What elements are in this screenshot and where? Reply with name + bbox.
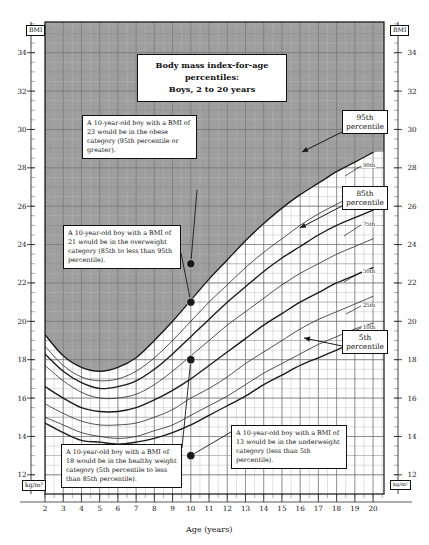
y-tick-26-right: 26 xyxy=(404,202,420,211)
x-tick-5: 5 xyxy=(92,504,108,513)
chart-title-line2: Boys, 2 to 20 years xyxy=(144,84,280,96)
x-tick-7: 7 xyxy=(128,504,144,513)
y-tick-20-right: 20 xyxy=(404,317,420,326)
x-tick-15: 15 xyxy=(274,504,290,513)
y-tick-18-right: 18 xyxy=(404,355,420,364)
label-75th-percentile: 75th xyxy=(362,222,376,227)
x-tick-3: 3 xyxy=(55,504,71,513)
y-tick-12-left: 12 xyxy=(14,470,30,479)
label-95th-percentile: 95th percentile xyxy=(342,110,388,134)
y-tick-18-left: 18 xyxy=(14,355,30,364)
callout-underweight: A 10-year-old boy with a BMI of 13 would… xyxy=(231,425,347,469)
y-tick-14-left: 14 xyxy=(14,432,30,441)
y-tick-14-right: 14 xyxy=(404,432,420,441)
label-95th-line2: percentile xyxy=(346,122,384,131)
y-tick-34-right: 34 xyxy=(404,48,420,57)
label-50th-percentile: 50th xyxy=(362,269,376,274)
label-5th-line2: percentile xyxy=(346,342,384,351)
y-axis-unit-top-right: BMI xyxy=(390,25,409,36)
y-tick-28-left: 28 xyxy=(14,163,30,172)
label-85th-line1: 85th xyxy=(346,189,384,198)
x-tick-16: 16 xyxy=(292,504,308,513)
y-tick-22-right: 22 xyxy=(404,278,420,287)
x-tick-13: 13 xyxy=(237,504,253,513)
label-10th-percentile: 10th xyxy=(362,325,376,330)
y-tick-20-left: 20 xyxy=(14,317,30,326)
y-tick-24-right: 24 xyxy=(404,240,420,249)
label-5th-percentile: 5th percentile xyxy=(342,330,388,354)
y-tick-30-right: 30 xyxy=(404,125,420,134)
y-tick-32-right: 32 xyxy=(404,87,420,96)
label-25th-percentile: 25th xyxy=(362,303,376,308)
y-tick-24-left: 24 xyxy=(14,240,30,249)
y-tick-16-right: 16 xyxy=(404,394,420,403)
x-tick-19: 19 xyxy=(347,504,363,513)
callout-obese: A 10-year-old boy with a BMI of 23 would… xyxy=(82,115,197,159)
x-tick-6: 6 xyxy=(110,504,126,513)
y-tick-12-right: 12 xyxy=(404,470,420,479)
x-tick-18: 18 xyxy=(329,504,345,513)
callout-healthy-weight: A 10-year-old boy with a BMI of 18 would… xyxy=(61,444,182,488)
y-tick-30-left: 30 xyxy=(14,125,30,134)
label-85th-line2: percentile xyxy=(346,198,384,207)
label-90th-percentile: 90th xyxy=(362,163,376,168)
x-tick-17: 17 xyxy=(310,504,326,513)
callout-overweight: A 10-year-old boy with a BMI of 21 would… xyxy=(63,225,181,269)
y-tick-32-left: 32 xyxy=(14,87,30,96)
x-tick-10: 10 xyxy=(183,504,199,513)
y-axis-unit-bottom-right: kg/m² xyxy=(390,480,411,490)
y-axis-unit-bottom-left: kg/m² xyxy=(22,480,46,491)
x-axis-title: Age (years) xyxy=(186,525,232,534)
label-95th-line1: 95th xyxy=(346,113,384,122)
y-tick-28-right: 28 xyxy=(404,163,420,172)
x-tick-12: 12 xyxy=(219,504,235,513)
chart-title-box: Body mass index-for-age percentiles: Boy… xyxy=(137,54,287,102)
chart-title-line1: Body mass index-for-age percentiles: xyxy=(144,60,280,84)
label-85th-percentile: 85th percentile xyxy=(342,186,388,210)
x-tick-9: 9 xyxy=(165,504,181,513)
x-tick-20: 20 xyxy=(365,504,381,513)
y-tick-34-left: 34 xyxy=(14,48,30,57)
x-tick-14: 14 xyxy=(256,504,272,513)
y-tick-22-left: 22 xyxy=(14,278,30,287)
y-tick-16-left: 16 xyxy=(14,394,30,403)
y-tick-26-left: 26 xyxy=(14,202,30,211)
label-5th-line1: 5th xyxy=(346,333,384,342)
x-tick-4: 4 xyxy=(73,504,89,513)
x-tick-8: 8 xyxy=(146,504,162,513)
x-tick-2: 2 xyxy=(37,504,53,513)
y-axis-unit-top-left: BMI xyxy=(26,25,45,36)
bmi-for-age-chart: Body mass index-for-age percentiles: Boy… xyxy=(0,0,429,545)
x-tick-11: 11 xyxy=(201,504,217,513)
